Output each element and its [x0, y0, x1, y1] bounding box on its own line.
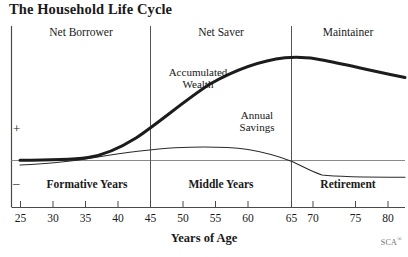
annual-savings-label: Annual Savings: [226, 110, 288, 134]
x-tick-label-70: 70: [300, 212, 326, 224]
phase-top-net-borrower: Net Borrower: [12, 26, 150, 38]
phase-bottom-formative-years: Formative Years: [24, 178, 150, 190]
accumulated-wealth-label: Accumulated Wealth: [160, 67, 236, 91]
x-tick-label-30: 30: [40, 212, 66, 224]
phase-bottom-middle-years-label: Middle Years: [188, 178, 253, 190]
household-life-cycle-chart: The Household Life Cycle: [0, 0, 408, 257]
x-tick-label-35: 35: [73, 212, 99, 224]
phase-bottom-middle-years: Middle Years: [151, 178, 291, 190]
x-axis-title: Years of Age: [0, 232, 408, 246]
negative-sign-label: –: [13, 176, 20, 190]
attribution-text: SCA: [381, 238, 397, 247]
phase-bottom-retirement: Retirement: [292, 178, 404, 190]
phase-bottom-formative-years-label: Formative Years: [47, 178, 128, 190]
phase-bottom-retirement-label: Retirement: [320, 178, 375, 190]
accumulated-wealth-label-line2: Wealth: [160, 79, 236, 91]
phase-top-net-saver-label: Net Saver: [198, 26, 244, 38]
registered-trademark-icon: ®: [397, 236, 402, 242]
phase-top-maintainer-label: Maintainer: [323, 26, 373, 38]
phase-top-maintainer: Maintainer: [292, 26, 404, 38]
attribution-mark: SCA®: [381, 236, 402, 247]
x-tick-label-60: 60: [235, 212, 261, 224]
annual-savings-label-line2: Savings: [226, 122, 288, 134]
x-axis-ticks: [21, 201, 389, 207]
x-tick-label-50: 50: [170, 212, 196, 224]
annual-savings-curve: [20, 147, 405, 177]
phase-top-net-saver: Net Saver: [151, 26, 291, 38]
x-tick-label-55: 55: [203, 212, 229, 224]
x-tick-label-40: 40: [105, 212, 131, 224]
x-tick-label-80: 80: [375, 212, 401, 224]
x-tick-label-25: 25: [8, 212, 34, 224]
phase-top-net-borrower-label: Net Borrower: [49, 26, 113, 38]
x-tick-label-75: 75: [343, 212, 369, 224]
x-tick-label-45: 45: [138, 212, 164, 224]
positive-sign-label: +: [13, 122, 20, 136]
